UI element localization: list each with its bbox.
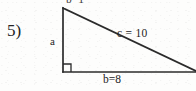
label-hypotenuse-c: c = 10 xyxy=(117,28,148,40)
right-triangle-diagram xyxy=(0,0,196,91)
triangle-hypotenuse xyxy=(63,8,196,72)
problem-number: 5) xyxy=(7,22,21,39)
label-leg-a: a xyxy=(50,36,55,47)
top-cutoff-label: b=1 xyxy=(66,0,84,6)
worksheet-problem-figure: 5) b=1 a c = 10 b=8 xyxy=(0,0,196,91)
label-leg-b: b=8 xyxy=(103,74,121,86)
right-angle-marker-icon xyxy=(63,64,71,72)
